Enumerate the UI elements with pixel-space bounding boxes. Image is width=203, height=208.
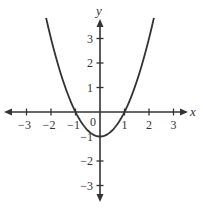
y-tick-label: −2	[80, 154, 93, 168]
y-axis-down-arrow-icon	[97, 194, 104, 202]
x-axis-right-arrow-icon	[180, 109, 188, 116]
y-tick-label: 2	[87, 56, 93, 70]
y-tick-label: 3	[87, 32, 93, 46]
y-axis-up-arrow-icon	[97, 19, 104, 27]
y-tick-label: −3	[80, 179, 93, 193]
x-tick-label: −3	[18, 118, 31, 132]
parabola-graph: −3−2−1123321−1−2−3 x y 0	[0, 0, 203, 208]
x-tick-label: 1	[122, 118, 128, 132]
axes	[4, 19, 188, 202]
y-tick-label: 1	[87, 81, 93, 95]
y-axis-label: y	[94, 3, 102, 18]
x-axis-left-arrow-icon	[4, 109, 12, 116]
x-tick-label: −1	[67, 118, 80, 132]
x-tick-label: −2	[43, 118, 56, 132]
x-tick-label: 2	[146, 118, 152, 132]
x-tick-label: 3	[171, 118, 177, 132]
origin-label: 0	[90, 115, 96, 129]
y-tick-label: −1	[80, 130, 93, 144]
x-axis-label: x	[189, 104, 196, 119]
